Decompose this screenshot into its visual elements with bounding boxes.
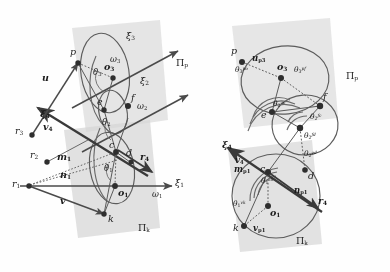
right-point-f-label: f xyxy=(323,92,327,102)
left-vector-n1-label: n1 xyxy=(60,170,71,180)
left-plane-pi-p xyxy=(72,20,168,132)
right-angle-theta3-pf-label: θ3pf xyxy=(294,66,306,75)
right-point-o1-label: o1 xyxy=(270,208,280,218)
left-plane-pi-k-label: Πk xyxy=(138,223,150,234)
left-point-e-label: e xyxy=(97,97,103,107)
left-point-d-label: d xyxy=(126,148,132,158)
right-vector-np1-label: np1 xyxy=(294,186,308,195)
right-plane-pi-p-label: Πp xyxy=(346,71,358,82)
left-axis-xi3-label: ξ3 xyxy=(126,31,135,42)
diagram-vector-layer xyxy=(0,0,390,272)
right-point-e-label: e xyxy=(261,110,267,120)
right-vector-mp1-label: mp1 xyxy=(234,165,250,174)
left-axis-xi2-label: ξ2 xyxy=(140,76,149,87)
left-plane-pi-p-label: Πp xyxy=(176,58,188,69)
right-point-r4-label: r4 xyxy=(318,196,327,206)
left-point-c-label: c xyxy=(109,140,114,150)
right-angle-theta1-ck-label: θ1ck xyxy=(261,177,274,186)
left-axis-xi4-label: ξ4 xyxy=(40,109,50,119)
right-point-p-label: p xyxy=(231,46,237,56)
left-vector-v-label: v xyxy=(60,196,66,206)
left-point-p-label: p xyxy=(70,47,76,57)
left-angle-theta1-label: θ1 xyxy=(104,164,112,173)
right-point-d-label: d xyxy=(308,171,314,181)
left-point-f-label: f xyxy=(131,93,135,103)
left-vector-m1-label: m1 xyxy=(57,152,71,162)
left-point-r1-label: r1 xyxy=(12,179,20,190)
right-angle-theta2-ed-label: θ2ed xyxy=(304,150,317,159)
right-plane-pi-p xyxy=(232,18,338,128)
right-point-c-label: c xyxy=(260,164,265,174)
left-point-r4-label: r4 xyxy=(140,152,149,162)
right-angle-theta1-vk-label: θ1vk xyxy=(233,200,246,209)
left-omega3-label: ω3 xyxy=(110,55,120,64)
left-omega1-label: ω1 xyxy=(152,190,162,199)
figure-canvas: p e f c d k o1 o3 r1 r2 r3 r4 ξ3 ξ2 ξ1 ξ… xyxy=(0,0,390,272)
left-point-r2-label: r2 xyxy=(30,150,38,161)
right-point-k-label: k xyxy=(233,223,239,233)
left-vector-u-line xyxy=(32,63,78,135)
left-point-o1-label: o1 xyxy=(118,188,128,198)
left-omega2-label: ω2 xyxy=(137,102,147,111)
left-vector-u-label: u xyxy=(42,73,49,83)
right-angle-theta2-ec-label: θ2ec xyxy=(273,100,285,109)
right-point-o3-label: o3 xyxy=(277,62,287,72)
right-angle-theta2-fd-label: θ2fd xyxy=(304,132,316,141)
right-plane-pi-k-label: Πk xyxy=(296,236,308,247)
left-angle-theta3-label: θ3 xyxy=(93,68,101,77)
right-vector-vp1-label: vp1 xyxy=(253,224,265,233)
left-angle-theta2-label: θ2 xyxy=(102,118,110,127)
left-point-k-label: k xyxy=(108,214,114,224)
left-axis-xi1-label: ξ1 xyxy=(175,178,184,189)
right-angle-theta2-fc-label: θ2fc xyxy=(310,113,322,122)
right-angle-theta3-po-label: θ3po xyxy=(235,66,248,75)
right-vector-up3-label: up3 xyxy=(252,54,266,63)
right-axis-xi4-label: ξ4 xyxy=(222,140,232,150)
left-point-r3-label: r3 xyxy=(15,126,23,137)
left-vector-v4-label: v4 xyxy=(43,122,53,132)
